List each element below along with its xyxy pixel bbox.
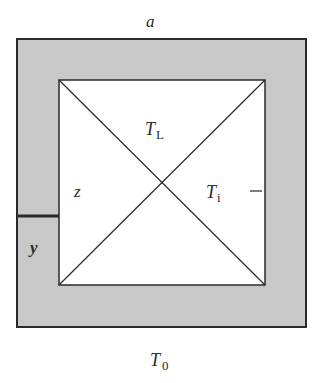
room-diagram: a TL z Ti y T0 xyxy=(0,0,325,383)
label-bottom: T0 xyxy=(150,350,169,373)
label-left-wall: y xyxy=(28,238,38,257)
label-left-triangle: z xyxy=(73,182,81,201)
label-top: a xyxy=(146,12,155,31)
